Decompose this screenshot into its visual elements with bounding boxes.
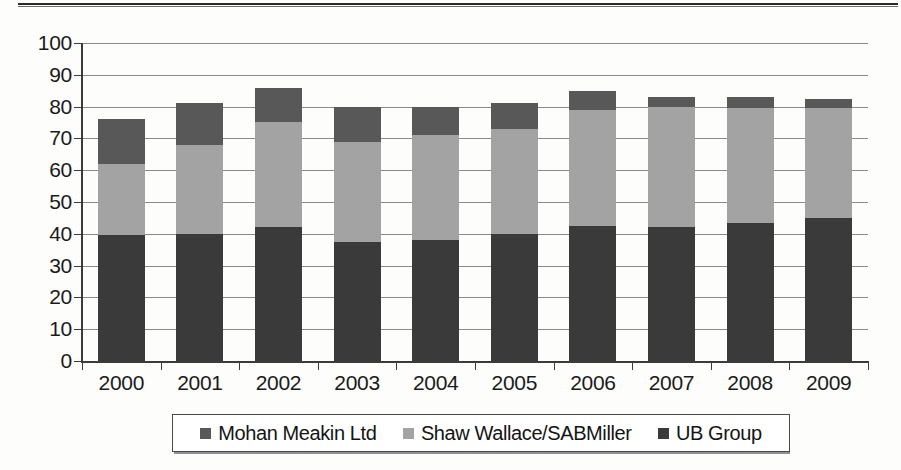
bar-2003 xyxy=(334,107,381,361)
bar-segment xyxy=(255,88,302,123)
x-axis-labels: 2000200120022003200420052006200720082009 xyxy=(0,372,901,402)
bar-2004 xyxy=(412,107,459,361)
y-axis-tick-label: 80 xyxy=(6,96,72,117)
x-tick xyxy=(554,362,555,370)
x-tick xyxy=(711,362,712,370)
bar-segment xyxy=(648,97,695,107)
x-tick-origin xyxy=(82,362,83,370)
x-axis-tick-label: 2005 xyxy=(474,372,554,393)
y-tick-0 xyxy=(74,361,82,362)
y-tick-80 xyxy=(74,107,82,108)
x-tick xyxy=(239,362,240,370)
y-tick-70 xyxy=(74,138,82,139)
bar-segment xyxy=(334,242,381,361)
bar-segment xyxy=(255,227,302,361)
x-axis-tick-label: 2000 xyxy=(81,372,161,393)
bar-segment xyxy=(176,145,223,234)
bar-segment xyxy=(569,110,616,226)
bar-2006 xyxy=(569,91,616,361)
bar-segment xyxy=(176,234,223,361)
x-axis-tick-label: 2007 xyxy=(632,372,712,393)
bar-2005 xyxy=(491,103,538,361)
x-axis-tick-label: 2009 xyxy=(789,372,869,393)
y-axis-tick-label: 30 xyxy=(6,255,72,276)
bar-segment xyxy=(569,91,616,110)
y-axis-tick-label: 10 xyxy=(6,318,72,339)
legend-item: Shaw Wallace/SABMiller xyxy=(403,423,632,443)
y-tick-60 xyxy=(74,170,82,171)
y-tick-30 xyxy=(74,266,82,267)
bar-segment xyxy=(491,129,538,234)
bar-segment xyxy=(727,97,774,108)
y-axis-tick-label: 40 xyxy=(6,223,72,244)
y-axis-tick-label: 0 xyxy=(6,350,72,371)
gridline-100 xyxy=(82,43,868,44)
y-tick-10 xyxy=(74,329,82,330)
legend-item-label: Mohan Meakin Ltd xyxy=(218,423,376,443)
x-tick xyxy=(868,362,869,370)
x-tick xyxy=(475,362,476,370)
bar-2002 xyxy=(255,88,302,361)
bar-segment xyxy=(334,142,381,242)
bar-segment xyxy=(805,108,852,218)
x-axis-tick-label: 2004 xyxy=(396,372,476,393)
x-tick xyxy=(632,362,633,370)
bar-segment xyxy=(412,107,459,136)
y-axis-tick-label: 70 xyxy=(6,127,72,148)
x-tick xyxy=(161,362,162,370)
legend-swatch-shaw-wallace xyxy=(403,428,414,439)
bar-segment xyxy=(648,227,695,361)
bar-segment xyxy=(648,107,695,228)
bar-segment xyxy=(98,235,145,361)
y-axis-tick-label: 90 xyxy=(6,64,72,85)
bar-segment xyxy=(98,164,145,236)
x-axis-tick-label: 2002 xyxy=(239,372,319,393)
bar-segment xyxy=(727,223,774,361)
y-axis-tick-label: 20 xyxy=(6,286,72,307)
legend-box-shadow xyxy=(174,452,790,454)
page-canvas: 0102030405060708090100 20002001200220032… xyxy=(0,0,901,470)
x-axis-tick-label: 2001 xyxy=(160,372,240,393)
legend-item: UB Group xyxy=(658,423,762,443)
legend-item-label: Shaw Wallace/SABMiller xyxy=(421,423,632,443)
bar-segment xyxy=(255,122,302,227)
chart-legend: Mohan Meakin LtdShaw Wallace/SABMillerUB… xyxy=(172,414,790,452)
bar-segment xyxy=(176,103,223,144)
x-tick xyxy=(318,362,319,370)
y-tick-50 xyxy=(74,202,82,203)
x-axis-tick-label: 2003 xyxy=(317,372,397,393)
bar-segment xyxy=(805,218,852,361)
bar-segment xyxy=(491,103,538,128)
bar-segment xyxy=(412,240,459,361)
y-tick-40 xyxy=(74,234,82,235)
bar-segment xyxy=(727,108,774,222)
bar-segment xyxy=(412,135,459,240)
x-axis-tick-label: 2006 xyxy=(553,372,633,393)
y-tick-20 xyxy=(74,297,82,298)
bar-segment xyxy=(569,226,616,361)
stacked-bar-chart: 0102030405060708090100 20002001200220032… xyxy=(0,0,901,470)
y-axis-tick-label: 100 xyxy=(6,32,72,53)
bar-segment xyxy=(805,99,852,109)
gridline-90 xyxy=(82,75,868,76)
legend-item-label: UB Group xyxy=(676,423,762,443)
bar-segment xyxy=(98,119,145,164)
legend-swatch-ub-group xyxy=(658,428,669,439)
y-tick-90 xyxy=(74,75,82,76)
bar-segment xyxy=(334,107,381,142)
x-axis-tick-label: 2008 xyxy=(710,372,790,393)
bar-segment xyxy=(491,234,538,361)
bar-2007 xyxy=(648,97,695,361)
bar-2001 xyxy=(176,103,223,361)
x-tick xyxy=(789,362,790,370)
legend-swatch-mohan-meakin xyxy=(200,428,211,439)
bar-2009 xyxy=(805,99,852,361)
x-tick xyxy=(396,362,397,370)
legend-item-list: Mohan Meakin LtdShaw Wallace/SABMillerUB… xyxy=(173,415,789,451)
legend-item: Mohan Meakin Ltd xyxy=(200,423,376,443)
y-tick-100 xyxy=(74,43,82,44)
bar-2000 xyxy=(98,119,145,361)
y-axis-tick-label: 50 xyxy=(6,191,72,212)
y-axis-tick-label: 60 xyxy=(6,159,72,180)
bar-2008 xyxy=(727,97,774,361)
